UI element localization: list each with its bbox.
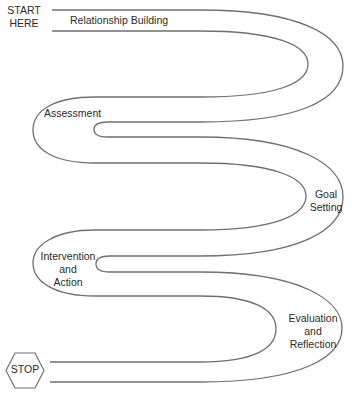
stop-label: STOP xyxy=(6,363,44,376)
stage-label: Assessment xyxy=(44,107,101,120)
stage-goal-setting: Goal Setting xyxy=(306,188,346,214)
start-label: START HERE xyxy=(2,4,46,30)
stage-relationship-building: Relationship Building xyxy=(70,14,168,27)
stage-label-line-1: Evaluation xyxy=(282,312,344,325)
stage-label: Relationship Building xyxy=(70,14,168,27)
road-boundary-inner xyxy=(33,31,308,362)
start-label-line-2: HERE xyxy=(2,17,46,30)
stage-assessment: Assessment xyxy=(44,107,101,120)
stage-label-line-1: Intervention xyxy=(38,250,98,263)
stage-label-line-2: Setting xyxy=(306,201,346,214)
stage-label-line-3: Reflection xyxy=(282,338,344,351)
stage-intervention-and-action: Intervention and Action xyxy=(38,250,98,289)
stage-evaluation-and-reflection: Evaluation and Reflection xyxy=(282,312,344,351)
stage-label-line-1: Goal xyxy=(306,188,346,201)
stage-label-line-2: and xyxy=(282,325,344,338)
start-label-line-1: START xyxy=(2,4,46,17)
stage-label-line-2: and xyxy=(38,263,98,276)
stage-label-line-3: Action xyxy=(38,276,98,289)
